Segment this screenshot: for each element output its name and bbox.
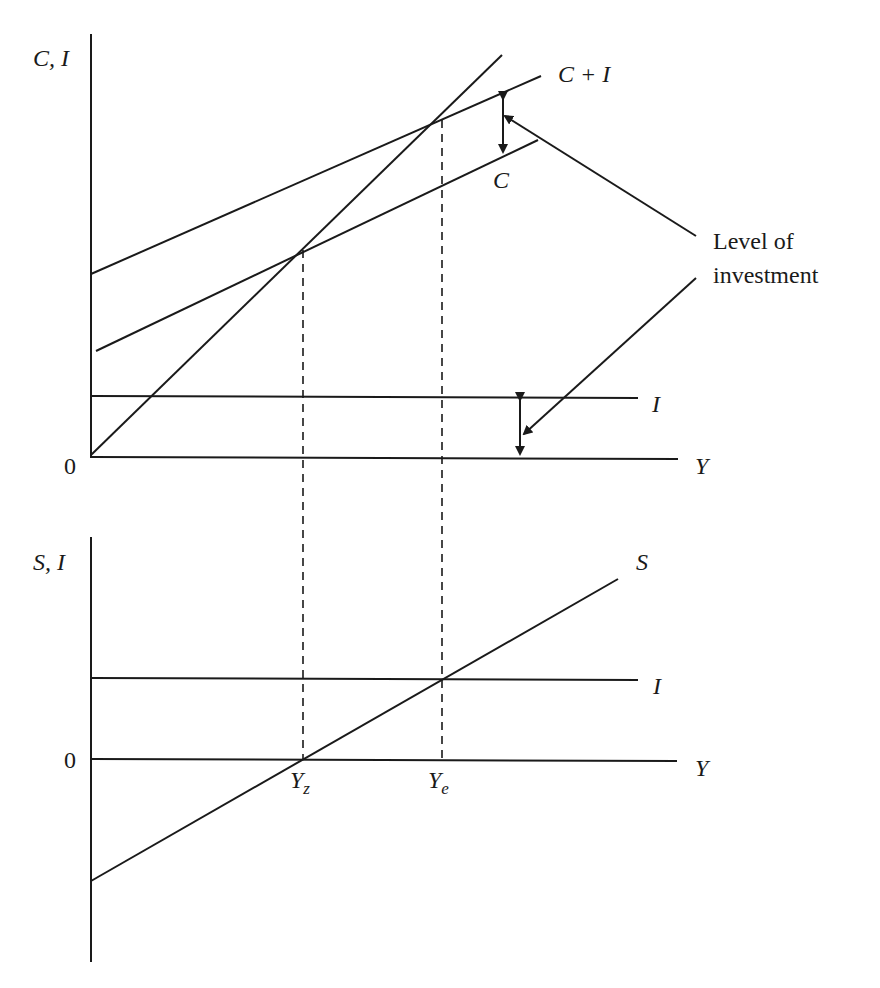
investment-label-bottom: I	[652, 673, 662, 699]
annotation-pointer-lower	[524, 278, 696, 434]
investment-line-bottom	[91, 678, 638, 680]
savings-curve	[91, 579, 618, 881]
annotation-line-2: investment	[713, 262, 819, 288]
bottom-origin-label: 0	[64, 747, 76, 773]
c-plus-i-label: C + I	[558, 61, 611, 87]
investment-line-top	[91, 396, 638, 398]
top-panel: C, I 0 Y C + I C I	[33, 34, 711, 479]
bottom-y-axis-label: S, I	[33, 549, 66, 575]
top-origin-label: 0	[64, 453, 76, 479]
consumption-curve	[96, 140, 538, 351]
bottom-x-axis	[91, 759, 677, 761]
consumption-label: C	[493, 167, 510, 193]
bottom-x-axis-label: Y	[695, 755, 711, 781]
income-expenditure-diagram: C, I 0 Y C + I C I Level of investment S…	[0, 0, 880, 988]
savings-label: S	[636, 549, 648, 575]
top-x-axis	[91, 457, 678, 459]
yz-tick-label: Yz	[290, 767, 310, 798]
ye-tick-label: Ye	[428, 767, 449, 798]
top-y-axis-label: C, I	[33, 45, 70, 71]
level-of-investment-annotation: Level of investment	[505, 116, 819, 434]
top-x-axis-label: Y	[695, 453, 711, 479]
c-plus-i-curve	[91, 76, 541, 274]
investment-label-top: I	[651, 391, 661, 417]
annotation-line-1: Level of	[713, 228, 794, 254]
annotation-pointer-upper	[505, 116, 696, 236]
bottom-panel: S, I 0 Y S I Yz Ye	[33, 537, 711, 962]
